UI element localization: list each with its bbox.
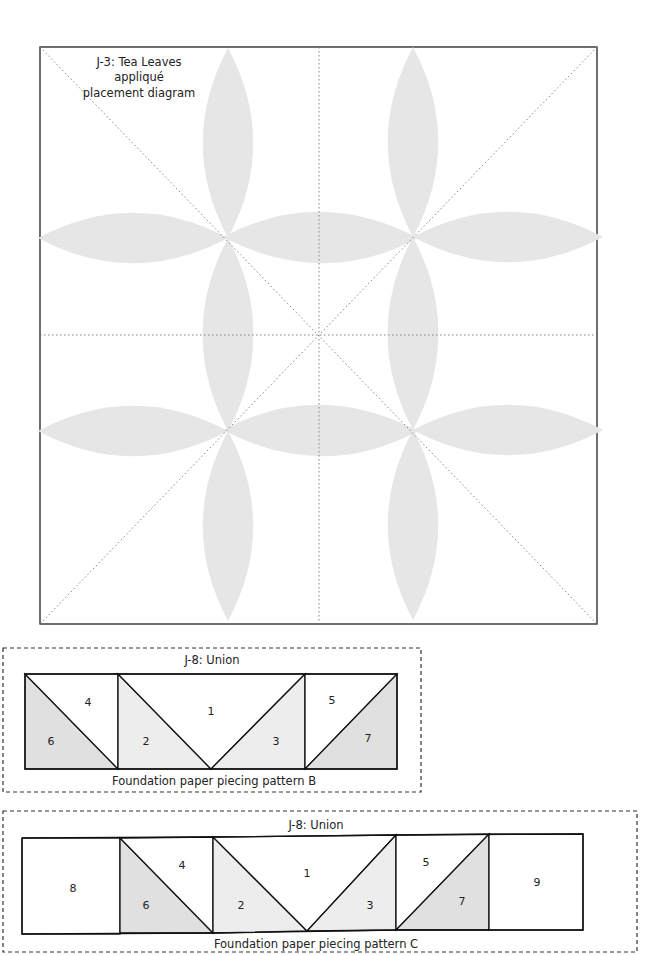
diagram-title-line-2: appliqué [114, 70, 164, 84]
label-b-2: 2 [143, 735, 150, 748]
label-c-9: 9 [534, 876, 541, 889]
placement-diagram: J-3: Tea Leaves appliqué placement diagr… [38, 47, 603, 624]
pattern-c-caption: Foundation paper piecing pattern C [214, 937, 418, 951]
label-b-3: 3 [273, 735, 280, 748]
pattern-c-blocks [22, 834, 583, 934]
label-c-3: 3 [367, 899, 374, 912]
label-c-7: 7 [459, 895, 466, 908]
label-c-6: 6 [143, 899, 150, 912]
label-b-4: 4 [85, 696, 92, 709]
pattern-b-caption: Foundation paper piecing pattern B [112, 774, 316, 788]
pattern-c: J-8: Union 8 4 6 1 2 3 5 7 9 Foundation … [3, 811, 637, 952]
label-c-8: 8 [70, 882, 77, 895]
diagram-title-line-3: placement diagram [83, 86, 196, 100]
pattern-b: J-8: Union 4 6 1 2 3 5 7 Foundation pape… [3, 648, 421, 792]
pattern-b-title: J-8: Union [183, 653, 239, 667]
label-c-5: 5 [423, 856, 430, 869]
label-b-7: 7 [365, 732, 372, 745]
pattern-c-title: J-8: Union [287, 818, 343, 832]
label-b-6: 6 [48, 735, 55, 748]
label-b-1: 1 [208, 705, 215, 718]
diagram-title-line-1: J-3: Tea Leaves [95, 55, 181, 69]
label-c-1: 1 [304, 867, 311, 880]
label-b-5: 5 [329, 694, 336, 707]
label-c-4: 4 [179, 859, 186, 872]
page-canvas: J-3: Tea Leaves appliqué placement diagr… [0, 0, 647, 955]
pattern-b-blocks [25, 674, 397, 769]
label-c-2: 2 [238, 899, 245, 912]
